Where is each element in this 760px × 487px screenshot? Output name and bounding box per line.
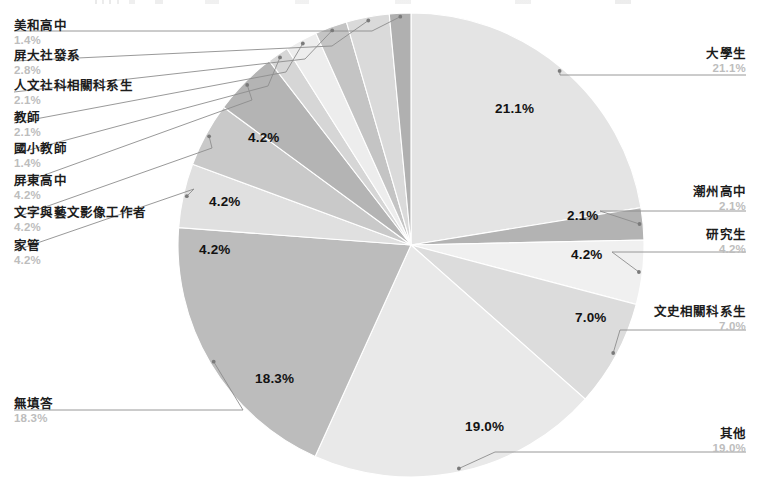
- callout-value-jiaoshi: 2.1%: [14, 126, 41, 139]
- pie-chart-svg: [0, 0, 760, 487]
- callout-value-jiaguan: 4.2%: [14, 254, 41, 267]
- callout-label-guoxiao: 國小教師: [14, 143, 67, 156]
- leader-dot-13: [398, 15, 402, 19]
- leader-dot-12: [366, 19, 370, 23]
- leader-dot-9: [278, 56, 282, 60]
- leader-dot-4: [457, 467, 461, 471]
- callout-label-pingda: 屏大社發系: [14, 50, 80, 63]
- leader-dot-10: [301, 42, 305, 46]
- leader-line-3: [613, 330, 746, 353]
- callout-wenzi[interactable]: 文字與藝文影像工作者 4.2%: [14, 207, 146, 234]
- callout-value-pingdong: 4.2%: [14, 189, 67, 202]
- callout-label-pingdong: 屏東高中: [14, 175, 67, 188]
- callout-value-qita: 19.0%: [712, 442, 746, 455]
- callout-jiaguan[interactable]: 家管 4.2%: [14, 240, 41, 267]
- callout-value-daxuesheng: 21.1%: [706, 62, 746, 75]
- callout-wenshi[interactable]: 文史相關科系生 7.0%: [654, 306, 746, 333]
- leader-dot-8: [245, 83, 249, 87]
- callout-label-wutianda: 無填答: [14, 398, 54, 411]
- callout-value-wutianda: 18.3%: [14, 412, 54, 425]
- leader-dot-2: [637, 270, 641, 274]
- pie-chart-figure: 美和高中 1.4% 屏大社發系 2.8% 人文社科相關科系生 2.1% 教師 2…: [0, 0, 760, 487]
- slice-percent-qita: 19.0%: [465, 419, 504, 434]
- callout-label-qita: 其他: [712, 428, 746, 441]
- callout-pingda[interactable]: 屏大社發系 2.8%: [14, 50, 80, 77]
- slice-percent-wutianda: 18.3%: [255, 371, 294, 386]
- callout-guoxiao[interactable]: 國小教師 1.4%: [14, 143, 67, 170]
- callout-value-meihe: 1.4%: [14, 34, 67, 47]
- callout-label-meihe: 美和高中: [14, 20, 67, 33]
- callout-value-wenzi: 4.2%: [14, 221, 146, 234]
- callout-label-yanjiusheng: 研究生: [706, 229, 746, 242]
- callout-pingdong[interactable]: 屏東高中 4.2%: [14, 175, 67, 202]
- slice-percent-yanjiusheng: 4.2%: [571, 247, 603, 262]
- leader-dot-11: [330, 29, 334, 33]
- callout-label-wenshi: 文史相關科系生: [654, 306, 746, 319]
- callout-chaozhou[interactable]: 潮州高中 2.1%: [693, 186, 746, 213]
- callout-yanjiusheng[interactable]: 研究生 4.2%: [706, 229, 746, 256]
- slice-percent-chaozhou: 2.1%: [567, 208, 599, 223]
- callout-wutianda[interactable]: 無填答 18.3%: [14, 398, 54, 425]
- leader-dot-7: [207, 134, 211, 138]
- callout-label-renwen: 人文社科相關科系生: [14, 80, 133, 93]
- callout-value-guoxiao: 1.4%: [14, 157, 67, 170]
- callout-daxuesheng[interactable]: 大學生 21.1%: [706, 48, 746, 75]
- callout-value-renwen: 2.1%: [14, 94, 133, 107]
- leader-dot-3: [611, 351, 615, 355]
- leader-dot-6: [185, 194, 189, 198]
- leader-dot-0: [558, 69, 562, 73]
- callout-renwen[interactable]: 人文社科相關科系生 2.1%: [14, 80, 133, 107]
- slice-percent-wenzi: 4.2%: [209, 194, 241, 209]
- callout-label-jiaoshi: 教師: [14, 112, 41, 125]
- callout-value-wenshi: 7.0%: [654, 320, 746, 333]
- callout-label-chaozhou: 潮州高中: [693, 186, 746, 199]
- leader-dot-1: [638, 222, 642, 226]
- callout-jiaoshi[interactable]: 教師 2.1%: [14, 112, 41, 139]
- leader-dot-5: [212, 360, 216, 364]
- pie-slice-0[interactable]: [411, 13, 641, 245]
- callout-label-wenzi: 文字與藝文影像工作者: [14, 207, 146, 220]
- callout-label-jiaguan: 家管: [14, 240, 41, 253]
- callout-label-daxuesheng: 大學生: [706, 48, 746, 61]
- slice-percent-pingdong: 4.2%: [248, 130, 280, 145]
- pie-slice-group: [178, 13, 644, 477]
- callout-qita[interactable]: 其他 19.0%: [712, 428, 746, 455]
- callout-value-pingda: 2.8%: [14, 64, 80, 77]
- slice-percent-daxuesheng: 21.1%: [495, 101, 534, 116]
- slice-percent-wenshi: 7.0%: [575, 310, 607, 325]
- callout-meihe[interactable]: 美和高中 1.4%: [14, 20, 67, 47]
- callout-value-yanjiusheng: 4.2%: [706, 243, 746, 256]
- callout-value-chaozhou: 2.1%: [693, 200, 746, 213]
- slice-percent-jiaguan: 4.2%: [199, 242, 231, 257]
